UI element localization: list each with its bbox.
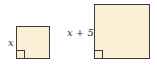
right-angle-marker — [95, 50, 103, 58]
right-angle-marker — [17, 50, 25, 58]
small-square-side-label: x — [8, 38, 14, 48]
large-square-side-label: x + 5 — [67, 28, 94, 38]
small-square — [16, 26, 50, 59]
large-square — [94, 4, 150, 59]
